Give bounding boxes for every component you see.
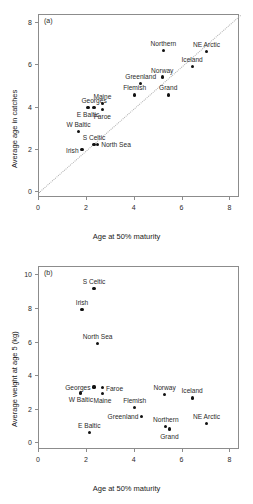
y-tick-b-1 bbox=[35, 409, 38, 410]
data-point-label: W Baltic bbox=[66, 121, 90, 128]
y-tick-label-b-4: 8 bbox=[18, 304, 32, 311]
y-tick-label-b-3: 6 bbox=[18, 338, 32, 345]
x-tick-label-a-0: 0 bbox=[36, 204, 40, 211]
data-point-label: Northern bbox=[151, 40, 177, 47]
x-tick-b-3 bbox=[182, 449, 183, 452]
data-point bbox=[80, 148, 83, 151]
data-point bbox=[92, 385, 95, 388]
y-tick-b-0 bbox=[35, 442, 38, 443]
y-tick-b-5 bbox=[35, 274, 38, 275]
y-tick-a-0 bbox=[35, 191, 38, 192]
data-point-label: NE Arctic bbox=[193, 413, 220, 420]
y-tick-label-a-2: 4 bbox=[18, 103, 32, 110]
data-point-label: North Sea bbox=[101, 141, 131, 148]
plot-area-a: IrishS CelticW BalticNorth SeaE BalticGe… bbox=[39, 15, 238, 196]
panel-tag-b: (b) bbox=[44, 269, 53, 276]
x-axis-title-b: Age at 50% maturity bbox=[0, 484, 253, 493]
data-point-label: Iceland bbox=[182, 56, 203, 63]
data-point-label: Georges bbox=[65, 384, 90, 391]
x-tick-label-b-4: 8 bbox=[227, 456, 231, 463]
data-point bbox=[101, 386, 104, 389]
y-axis-title-b: Average weight at age 5 (kg) bbox=[10, 331, 19, 427]
data-point bbox=[163, 393, 166, 396]
data-point-label: Norway bbox=[151, 67, 173, 74]
y-tick-label-a-1: 2 bbox=[18, 145, 32, 152]
x-tick-a-4 bbox=[229, 197, 230, 200]
y-tick-label-b-0: 0 bbox=[18, 439, 32, 446]
data-point bbox=[92, 287, 95, 290]
data-point-label: Maine bbox=[93, 397, 111, 404]
data-point-label: Grand bbox=[160, 433, 178, 440]
data-point-label: Flemish bbox=[123, 84, 146, 91]
data-point bbox=[140, 415, 143, 418]
data-point-label: Faroe bbox=[94, 113, 111, 120]
data-point bbox=[164, 425, 167, 428]
y-tick-label-a-0: 0 bbox=[18, 187, 32, 194]
data-point bbox=[133, 406, 136, 409]
x-tick-label-a-3: 6 bbox=[180, 204, 184, 211]
panel-b: S CelticIrishNorth SeaGeorgesFaroeW Balt… bbox=[0, 252, 253, 504]
data-point-label: NE Arctic bbox=[193, 41, 220, 48]
data-point bbox=[162, 49, 165, 52]
data-point-label: Irish bbox=[76, 299, 88, 306]
y-tick-b-2 bbox=[35, 375, 38, 376]
panel-tag-a: (a) bbox=[44, 17, 53, 24]
data-point bbox=[191, 396, 194, 399]
x-tick-a-0 bbox=[38, 197, 39, 200]
y-axis-title-a: Average age in catches bbox=[10, 90, 19, 168]
data-point-label: Iceland bbox=[182, 387, 203, 394]
y-tick-b-4 bbox=[35, 308, 38, 309]
data-point-label: S Celtic bbox=[83, 278, 106, 285]
y-tick-label-b-5: 10 bbox=[18, 271, 32, 278]
figure-two-panel-scatter: IrishS CelticW BalticNorth SeaE BalticGe… bbox=[0, 0, 253, 504]
data-point-label: Grand bbox=[159, 84, 177, 91]
data-point-label: Greenland bbox=[108, 413, 139, 420]
data-point-label: Faroe bbox=[106, 384, 123, 391]
data-point-label: Greenland bbox=[125, 73, 156, 80]
y-tick-a-3 bbox=[35, 64, 38, 65]
x-tick-label-b-3: 6 bbox=[180, 456, 184, 463]
plot-frame-a: IrishS CelticW BalticNorth SeaE BalticGe… bbox=[38, 14, 239, 197]
data-point-label: Maine bbox=[93, 93, 111, 100]
data-point bbox=[101, 392, 104, 395]
data-point bbox=[86, 106, 89, 109]
x-tick-a-1 bbox=[86, 197, 87, 200]
data-point bbox=[101, 108, 104, 111]
data-point-label: North Sea bbox=[83, 333, 113, 340]
x-tick-label-a-1: 2 bbox=[84, 204, 88, 211]
x-tick-label-b-2: 4 bbox=[132, 456, 136, 463]
data-point bbox=[161, 75, 164, 78]
data-point-label: E Baltic bbox=[78, 422, 100, 429]
data-point bbox=[168, 427, 171, 430]
data-point bbox=[96, 342, 99, 345]
x-tick-a-3 bbox=[182, 197, 183, 200]
y-tick-label-a-4: 8 bbox=[18, 19, 32, 26]
x-tick-label-a-4: 8 bbox=[227, 204, 231, 211]
data-point bbox=[133, 93, 136, 96]
data-point bbox=[77, 130, 80, 133]
data-point-label: W Baltic bbox=[69, 396, 93, 403]
y-tick-label-a-3: 6 bbox=[18, 61, 32, 68]
x-tick-label-a-2: 4 bbox=[132, 204, 136, 211]
x-tick-b-4 bbox=[229, 449, 230, 452]
x-tick-b-1 bbox=[86, 449, 87, 452]
data-point bbox=[101, 102, 104, 105]
data-point bbox=[191, 65, 194, 68]
x-axis-title-a: Age at 50% maturity bbox=[0, 232, 253, 241]
data-point-label: Flemish bbox=[123, 397, 146, 404]
data-point-label: Norway bbox=[153, 384, 175, 391]
y-tick-a-2 bbox=[35, 107, 38, 108]
x-tick-b-2 bbox=[134, 449, 135, 452]
data-point-label: Northern bbox=[153, 416, 179, 423]
data-point bbox=[205, 422, 208, 425]
y-tick-label-b-2: 4 bbox=[18, 372, 32, 379]
data-point bbox=[92, 106, 95, 109]
x-tick-label-b-1: 2 bbox=[84, 456, 88, 463]
data-point bbox=[167, 93, 170, 96]
data-point-label: Irish bbox=[66, 146, 78, 153]
y-tick-b-3 bbox=[35, 342, 38, 343]
x-tick-b-0 bbox=[38, 449, 39, 452]
plot-frame-b: S CelticIrishNorth SeaGeorgesFaroeW Balt… bbox=[38, 266, 239, 449]
y-tick-a-4 bbox=[35, 22, 38, 23]
panel-a: IrishS CelticW BalticNorth SeaE BalticGe… bbox=[0, 0, 253, 252]
